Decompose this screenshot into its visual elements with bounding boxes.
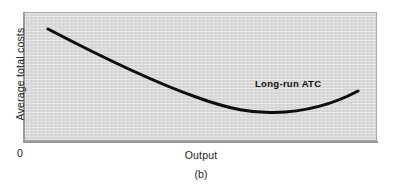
curve-label-long-run-atc: Long-run ATC — [255, 78, 321, 89]
x-axis-label: Output — [0, 149, 402, 161]
plot-area — [24, 12, 377, 141]
x-axis-line — [23, 141, 378, 143]
y-axis-label: Average total costs — [14, 9, 26, 139]
paper-texture — [25, 13, 376, 140]
origin-label: 0 — [17, 147, 23, 159]
figure-panel-b: Average total costs Output 0 Long-run AT… — [0, 0, 402, 192]
panel-caption: (b) — [0, 168, 402, 180]
